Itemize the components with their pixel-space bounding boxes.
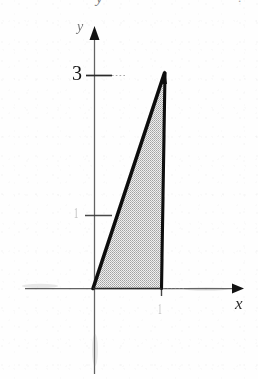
plot-svg	[0, 0, 258, 379]
figure-canvas: y .	[0, 0, 258, 379]
x-axis-arrowhead	[232, 284, 244, 294]
x-axis-name-label: x	[235, 295, 243, 312]
shaded-region-group	[93, 70, 167, 289]
y-axis-tick-label-1: 1	[74, 206, 78, 221]
x-axis-tick-label-1: 1	[158, 302, 162, 317]
y-axis-tick-label-3: 3	[72, 63, 82, 83]
scan-smudges	[22, 284, 228, 366]
y-axis-arrowhead	[90, 26, 100, 40]
y-axis-name-label: y	[77, 20, 83, 34]
